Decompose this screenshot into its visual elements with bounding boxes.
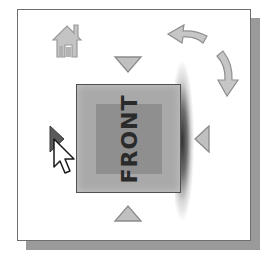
pointer-cursor-icon — [52, 137, 78, 179]
face-label: FRONT — [116, 94, 141, 183]
home-icon[interactable] — [50, 20, 84, 60]
triangle-up-icon[interactable] — [113, 203, 143, 223]
viewcube-front-face[interactable]: FRONT — [76, 84, 181, 193]
triangle-down-icon[interactable] — [113, 55, 143, 75]
